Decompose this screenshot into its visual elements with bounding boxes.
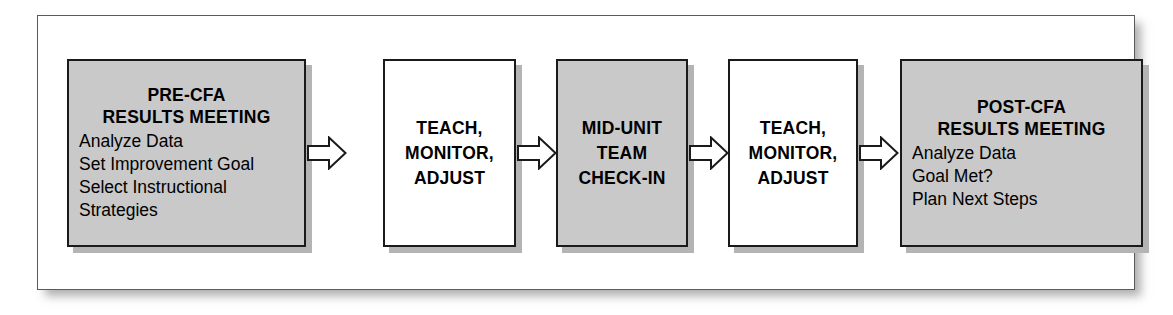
node-heading-line: ADJUST: [395, 166, 504, 191]
node-detail-list: Analyze Data Goal Met? Plan Next Steps: [912, 142, 1131, 211]
node-heading-line: MID-UNIT: [568, 116, 676, 141]
process-node-mid-unit-team-check-in: MID-UNIT TEAM CHECK-IN: [556, 59, 688, 247]
node-heading-line: MONITOR,: [740, 141, 846, 166]
node-heading-line: POST-CFA: [912, 96, 1131, 118]
node-heading-line: CHECK-IN: [568, 166, 676, 191]
node-heading-line: ADJUST: [740, 166, 846, 191]
process-flow: PRE-CFA RESULTS MEETING Analyze Data Set…: [67, 59, 1107, 247]
diagram-canvas: PRE-CFA RESULTS MEETING Analyze Data Set…: [0, 0, 1173, 315]
node-detail-line: Analyze Data: [912, 142, 1131, 165]
node-detail-line: Set Improvement Goal: [79, 153, 294, 176]
node-content: PRE-CFA RESULTS MEETING Analyze Data Set…: [69, 84, 304, 222]
node-heading-line: PRE-CFA: [79, 84, 294, 106]
node-content: TEACH, MONITOR, ADJUST: [385, 116, 514, 191]
node-detail-line: Goal Met?: [912, 165, 1131, 188]
process-node-teach-monitor-adjust-1: TEACH, MONITOR, ADJUST: [383, 59, 516, 247]
node-heading-line: RESULTS MEETING: [79, 106, 294, 128]
flow-arrow-right-icon: [307, 136, 347, 170]
process-node-post-cfa-results-meeting: POST-CFA RESULTS MEETING Analyze Data Go…: [900, 59, 1143, 247]
node-heading-line: MONITOR,: [395, 141, 504, 166]
node-detail-line: Select Instructional: [79, 176, 294, 199]
node-detail-list: Analyze Data Set Improvement Goal Select…: [79, 130, 294, 222]
node-detail-line: Analyze Data: [79, 130, 294, 153]
node-content: MID-UNIT TEAM CHECK-IN: [558, 116, 686, 191]
process-node-teach-monitor-adjust-2: TEACH, MONITOR, ADJUST: [728, 59, 858, 247]
flow-arrow-right-icon: [517, 136, 557, 170]
node-heading-line: TEAM: [568, 141, 676, 166]
flow-arrow-right-icon: [689, 136, 729, 170]
node-content: POST-CFA RESULTS MEETING Analyze Data Go…: [902, 96, 1141, 211]
node-content: TEACH, MONITOR, ADJUST: [730, 116, 856, 191]
node-detail-line: Strategies: [79, 199, 294, 222]
flow-arrow-right-icon: [859, 136, 899, 170]
node-heading-line: TEACH,: [740, 116, 846, 141]
process-node-pre-cfa-results-meeting: PRE-CFA RESULTS MEETING Analyze Data Set…: [67, 59, 306, 247]
node-heading-line: RESULTS MEETING: [912, 118, 1131, 140]
diagram-frame: PRE-CFA RESULTS MEETING Analyze Data Set…: [37, 15, 1135, 290]
node-heading-line: TEACH,: [395, 116, 504, 141]
node-detail-line: Plan Next Steps: [912, 188, 1131, 211]
